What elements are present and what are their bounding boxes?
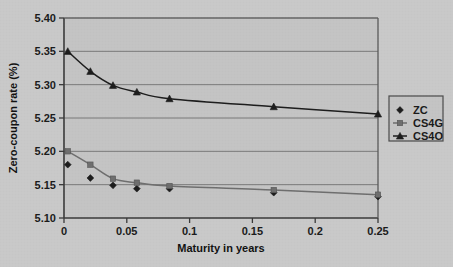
series-marker-cs4g xyxy=(271,187,276,192)
series-marker-cs4g xyxy=(134,180,139,185)
x-tick-label: 0.05 xyxy=(116,225,137,237)
x-tick-label: 0.25 xyxy=(367,225,388,237)
series-marker-cs4g xyxy=(110,176,115,181)
chart-container: 00.050.10.150.20.25 5.105.155.205.255.30… xyxy=(0,0,453,267)
y-tick-label: 5.30 xyxy=(35,79,56,91)
series-marker-cs4g xyxy=(65,149,70,154)
legend-label-zc: ZC xyxy=(413,104,428,116)
legend-label-cs4g: CS4G xyxy=(413,117,443,129)
y-tick-label: 5.10 xyxy=(35,212,56,224)
x-tick-label: 0.15 xyxy=(242,225,263,237)
x-tick-label: 0.2 xyxy=(308,225,323,237)
legend-label-cs4o: CS4O xyxy=(413,130,443,142)
x-tick-label: 0 xyxy=(61,225,67,237)
y-tick-label: 5.25 xyxy=(35,112,56,124)
y-tick-label: 5.15 xyxy=(35,179,56,191)
y-tick-label: 5.35 xyxy=(35,45,56,57)
series-marker-cs4g xyxy=(88,162,93,167)
x-tick-label: 0.1 xyxy=(182,225,197,237)
y-axis-title: Zero-coupon rate (%) xyxy=(7,62,19,173)
series-marker-cs4g xyxy=(167,183,172,188)
x-axis-title: Maturity in years xyxy=(177,242,264,254)
legend-marker-cs4g xyxy=(397,120,402,125)
y-tick-label: 5.40 xyxy=(35,12,56,24)
series-marker-cs4g xyxy=(375,192,380,197)
legend: ZCCS4GCS4O xyxy=(389,96,443,142)
zero-coupon-rate-chart: 00.050.10.150.20.25 5.105.155.205.255.30… xyxy=(0,0,453,267)
y-tick-label: 5.20 xyxy=(35,145,56,157)
